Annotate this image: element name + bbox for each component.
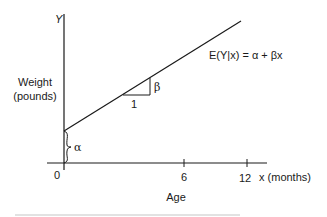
regression-line: [64, 21, 241, 131]
x-tick-label-6: 6: [181, 171, 187, 183]
y-axis-title-line1: Weight: [18, 76, 52, 88]
intercept-label: α: [74, 141, 82, 154]
y-axis-title-line2: (pounds): [13, 90, 56, 102]
x-axis-unit-label: x (months): [259, 171, 311, 183]
intercept-brace: [64, 131, 71, 163]
x-axis-title: Age: [166, 191, 186, 203]
x-tick-label-12: 12: [239, 172, 251, 184]
regression-diagram: Y Weight (pounds) E(Y|x) = α + βx β 1 α …: [0, 0, 327, 217]
equation-label: E(Y|x) = α + βx: [209, 49, 283, 61]
x-tick-label-0: 0: [54, 169, 60, 181]
slope-run-label: 1: [131, 98, 137, 110]
slope-rise-label: β: [154, 81, 160, 94]
y-axis-label: Y: [55, 13, 63, 25]
